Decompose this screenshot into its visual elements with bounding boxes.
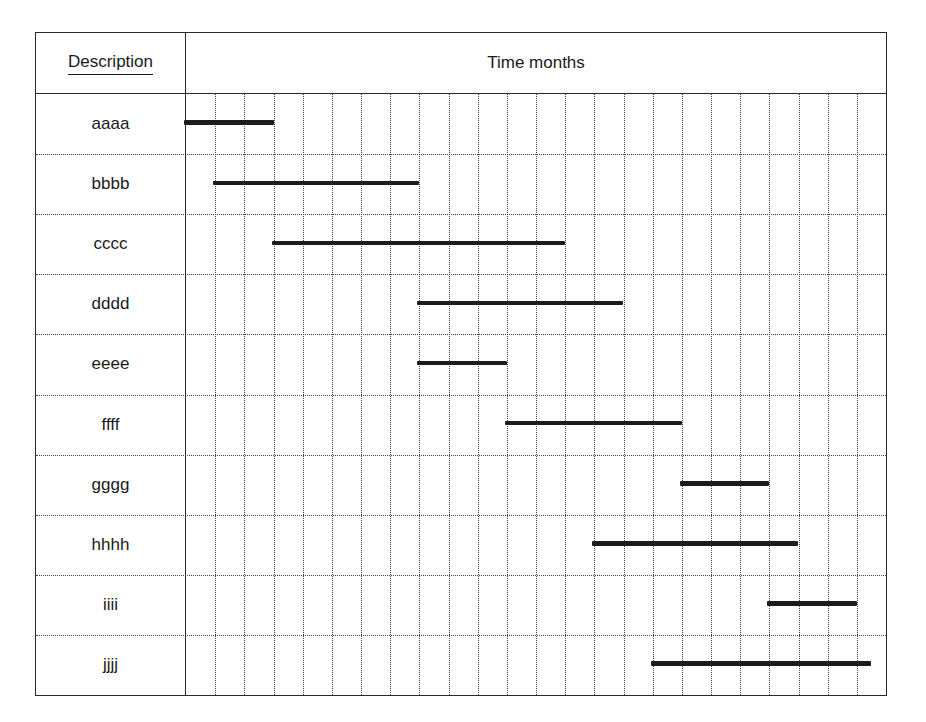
grid-vline (594, 94, 595, 695)
task-label: bbbb (36, 154, 185, 214)
task-label: cccc (36, 214, 185, 274)
grid-vline (857, 94, 858, 695)
task-bar-cccc (272, 241, 566, 246)
gantt-chart: Description Time months aaaabbbbccccdddd… (35, 32, 887, 696)
task-label: ffff (36, 395, 185, 455)
grid-vline (449, 94, 450, 695)
grid-vline (682, 94, 683, 695)
task-bar-bbbb (213, 181, 419, 186)
task-bar-gggg (680, 481, 770, 486)
task-bar-eeee (417, 361, 507, 366)
task-label: jjjj (36, 635, 185, 695)
grid-vline (565, 94, 566, 695)
grid-vline (419, 94, 420, 695)
description-header: Description (36, 33, 185, 93)
description-header-label: Description (68, 52, 153, 75)
task-bar-iiii (767, 601, 857, 606)
task-bar-ffff (505, 421, 682, 426)
grid-vline (653, 94, 654, 695)
task-label: gggg (36, 455, 185, 515)
grid-vline (711, 94, 712, 695)
task-bar-dddd (417, 301, 623, 306)
grid-vline (507, 94, 508, 695)
task-label: eeee (36, 334, 185, 394)
task-bar-hhhh (592, 541, 798, 546)
grid-vline (536, 94, 537, 695)
task-bar-aaaa (184, 120, 274, 125)
task-label: hhhh (36, 515, 185, 575)
time-months-header: Time months (186, 33, 886, 93)
grid-vline (478, 94, 479, 695)
timeline-grid (186, 94, 886, 695)
task-label: iiii (36, 575, 185, 635)
grid-vline (740, 94, 741, 695)
grid-vline (624, 94, 625, 695)
task-bar-jjjj (651, 661, 872, 666)
task-label: dddd (36, 274, 185, 334)
task-label: aaaa (36, 94, 185, 154)
